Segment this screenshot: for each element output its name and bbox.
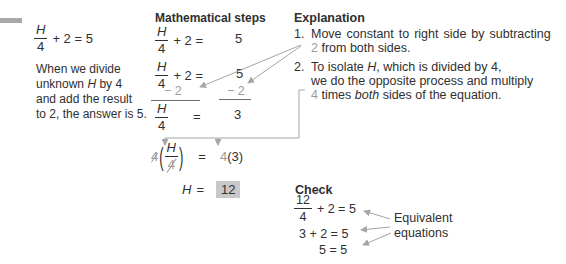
caption-line-2: unknown H by 4 xyxy=(36,77,147,92)
label-line-2: equations xyxy=(394,226,452,241)
textbook-page: H4 + 2 = 5 When we divide unknown H by 4… xyxy=(0,0,566,264)
item-text: Move constant to right side by subtracti… xyxy=(311,27,551,55)
subtraction-rule-right xyxy=(219,99,251,100)
math-steps-header: Mathematical steps xyxy=(155,11,266,25)
equation-rest: + 2 = 5 xyxy=(317,202,356,216)
caption-line-4: to 2, the answer is 5. xyxy=(36,107,147,122)
intro-caption: When we divide unknown H by 4 and add th… xyxy=(36,62,147,122)
fraction-numerator: H xyxy=(155,26,168,41)
intro-equation: H4 + 2 = 5 xyxy=(34,24,93,53)
item1-line1: Move constant to right side by subtracti… xyxy=(311,27,551,41)
item2-line1-pre: To isolate xyxy=(311,60,364,74)
fraction-denominator: 4 xyxy=(34,39,47,53)
fraction-h-over-4: H4 xyxy=(155,103,168,132)
fraction-denominator: 4 xyxy=(294,209,312,223)
item-text: To isolate H, which is divided by 4, we … xyxy=(311,60,533,102)
item2-line3-post: sides of the equation. xyxy=(383,88,502,102)
fraction-h-over-4: H4 xyxy=(155,26,168,55)
fraction-numerator: H xyxy=(155,103,168,118)
item1-line2: from both sides. xyxy=(321,41,410,55)
equivalent-arrow-2 xyxy=(361,227,390,230)
step4-equation: 4(H4)=4(3) xyxy=(151,142,243,171)
step4-equals: = xyxy=(198,149,206,164)
fraction-numerator: H xyxy=(165,142,178,157)
step2-rhs: 5 xyxy=(236,66,243,81)
caption-text: unknown xyxy=(36,77,84,91)
fraction-numerator: 12 xyxy=(294,194,312,209)
step1-rhs: 5 xyxy=(235,31,242,46)
step3-lhs: H4 xyxy=(155,103,168,132)
caption-text: by 4 xyxy=(99,77,122,91)
check-eq1: 124 + 2 = 5 xyxy=(294,194,356,223)
fraction-numerator: H xyxy=(34,24,47,39)
caption-line-1: When we divide xyxy=(36,62,147,77)
step5-result: H = 12 xyxy=(182,181,240,198)
fraction-h-over-cancelled-4: H4 xyxy=(165,142,178,171)
cancelled-denominator-4: 4 xyxy=(165,159,178,171)
close-paren: ) xyxy=(179,141,183,172)
variable-h: H xyxy=(87,77,96,91)
equation-rest: + 2 = xyxy=(173,33,203,48)
caption-line-3: and add the result xyxy=(36,92,147,107)
item-number: 2. xyxy=(294,60,311,102)
fraction-12-over-4: 124 xyxy=(294,194,312,223)
fraction-denominator: 4 xyxy=(155,118,168,132)
equation-rest: + 2 = 5 xyxy=(52,31,92,46)
label-line-1: Equivalent xyxy=(394,211,452,226)
item2-line2: we do the opposite process and multiply xyxy=(311,74,533,88)
check-eq3: 5 = 5 xyxy=(319,243,347,257)
equivalent-equations-label: Equivalent equations xyxy=(394,211,452,241)
variable-h: H xyxy=(182,182,191,197)
explanation-header: Explanation xyxy=(294,11,365,25)
fraction-denominator: 4 xyxy=(155,41,168,55)
step3-equals: = xyxy=(193,109,201,124)
fraction-h-over-4: H4 xyxy=(34,24,47,53)
step3-rhs: 3 xyxy=(234,107,241,122)
multiplier-4: 4 xyxy=(220,149,227,164)
subtract-2-left: − 2 xyxy=(164,84,182,98)
variable-h: H xyxy=(367,60,376,74)
fraction-numerator: H xyxy=(155,61,168,76)
answer-highlight: 12 xyxy=(216,181,240,198)
cancelled-coefficient-4: 4 xyxy=(151,149,158,164)
equivalent-arrow-3 xyxy=(363,233,391,245)
gray-4: 4 xyxy=(311,88,318,102)
decorative-bar xyxy=(0,18,22,23)
explanation-item-1: 1. Move constant to right side by subtra… xyxy=(294,27,551,55)
equivalent-arrow-1 xyxy=(364,211,390,219)
item2-line3-mid: times xyxy=(321,88,351,102)
item2-line1-post: , which is divided by 4, xyxy=(376,60,501,74)
open-paren: ( xyxy=(159,141,163,172)
explanation-item-2: 2. To isolate H, which is divided by 4, … xyxy=(294,60,533,102)
step5-equals: = xyxy=(196,182,204,197)
gray-2: 2 xyxy=(311,41,318,55)
step1-lhs: H4 + 2 = xyxy=(155,26,203,55)
subtract-2-right: − 2 xyxy=(227,84,245,98)
italic-both: both xyxy=(355,88,379,102)
step4-rhs: (3) xyxy=(227,149,243,164)
equation-rest: + 2 = xyxy=(173,68,203,83)
check-eq2: 3 + 2 = 5 xyxy=(299,227,348,241)
arrow-to-left-minus2 xyxy=(200,45,301,87)
item-number: 1. xyxy=(294,27,311,55)
